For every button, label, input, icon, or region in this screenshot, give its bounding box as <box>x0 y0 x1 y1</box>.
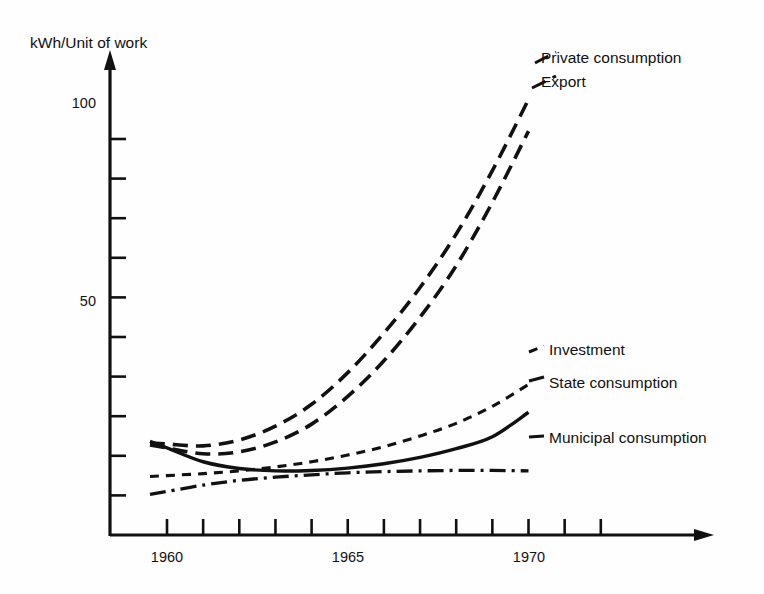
y-axis-ticks <box>110 139 126 495</box>
leader-line-state-consumption <box>529 377 544 381</box>
x-tick-label-1960: 1960 <box>151 549 183 565</box>
series-label-state-consumption: State consumption <box>549 374 677 391</box>
series-line-export <box>150 131 529 454</box>
x-tick-label-1970: 1970 <box>513 549 545 565</box>
y-tick-label-50: 50 <box>80 293 96 309</box>
y-axis-title: kWh/Unit of work <box>30 34 147 51</box>
series-label-private-consumption: Private consumption <box>541 49 681 66</box>
series-label-investment: Investment <box>549 341 626 358</box>
leader-line-investment <box>529 346 544 352</box>
x-axis-ticks <box>167 519 601 535</box>
series-line-private-consumption <box>150 99 529 446</box>
leader-line-municipal-consumption <box>529 436 544 437</box>
x-tick-label-1965: 1965 <box>332 549 364 565</box>
y-tick-label-100: 100 <box>72 95 96 111</box>
x-axis-arrow-icon <box>694 529 714 541</box>
line-chart: kWh/Unit of work 100 50 1960 1965 1970 P… <box>0 0 764 594</box>
y-axis-arrow-icon <box>104 50 116 70</box>
series-layer <box>150 99 529 494</box>
chart-container: kWh/Unit of work 100 50 1960 1965 1970 P… <box>0 0 764 594</box>
series-line-state-consumption <box>150 412 529 471</box>
series-label-export: Export <box>541 73 586 90</box>
series-label-municipal-consumption: Municipal consumption <box>549 429 707 446</box>
